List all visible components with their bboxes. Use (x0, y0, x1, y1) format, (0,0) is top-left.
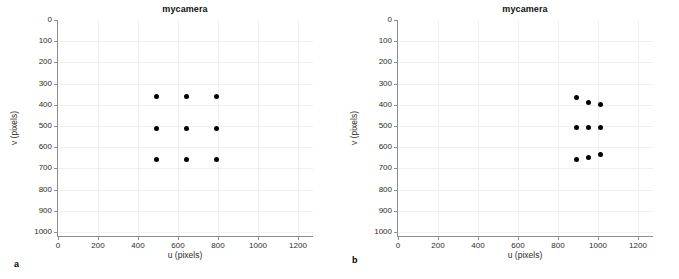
panel-a: mycamera 0200400600800100012000100200300… (0, 0, 339, 279)
scatter-point (574, 95, 579, 100)
scatter-point (184, 157, 189, 162)
scatter-point (574, 125, 579, 130)
panel-b-plot-area: 0200400600800100012000100200300400500600… (397, 20, 653, 237)
x-axis-tick-label: 1000 (249, 242, 267, 250)
y-axis-tick (54, 190, 58, 191)
scatter-point (154, 157, 159, 162)
scatter-point (598, 152, 603, 157)
scatter-point (214, 94, 219, 99)
x-axis-tick (438, 236, 439, 240)
scatter-point (574, 157, 579, 162)
x-axis-tick-label: 200 (91, 242, 104, 250)
x-axis-tick (258, 236, 259, 240)
y-axis-tick (394, 190, 398, 191)
y-axis-tick (394, 147, 398, 148)
y-axis-tick-label: 600 (379, 143, 392, 151)
y-axis-tick-label: 800 (379, 186, 392, 194)
scatter-point (586, 125, 591, 130)
panel-a-y-axis-label: v (pixels) (9, 111, 19, 145)
panel-b-y-axis-label: v (pixels) (349, 111, 359, 145)
y-axis-tick-label: 100 (379, 37, 392, 45)
x-axis-tick (638, 236, 639, 240)
y-axis-tick-label: 500 (39, 122, 52, 130)
scatter-point (598, 102, 603, 107)
x-axis-tick-label: 400 (471, 242, 484, 250)
y-axis-tick (54, 211, 58, 212)
x-axis-tick (138, 236, 139, 240)
scatter-point (154, 94, 159, 99)
x-axis-tick-label: 800 (211, 242, 224, 250)
y-axis-tick-label: 800 (39, 186, 52, 194)
y-axis-tick-label: 400 (379, 101, 392, 109)
x-axis-tick-label: 600 (511, 242, 524, 250)
y-axis-tick (394, 41, 398, 42)
panel-b-data-points (398, 20, 653, 236)
y-axis-tick-label: 0 (388, 16, 392, 24)
y-axis-tick (394, 105, 398, 106)
y-axis-tick-label: 600 (39, 143, 52, 151)
y-axis-tick (394, 232, 398, 233)
panel-a-plot-area: 0200400600800100012000100200300400500600… (57, 20, 313, 237)
x-axis-tick-label: 0 (56, 242, 60, 250)
y-axis-tick (394, 84, 398, 85)
y-axis-tick-label: 0 (48, 16, 52, 24)
y-axis-tick-label: 200 (39, 58, 52, 66)
y-axis-tick (54, 84, 58, 85)
scatter-point (184, 94, 189, 99)
y-axis-tick-label: 200 (379, 58, 392, 66)
x-axis-tick (518, 236, 519, 240)
panel-b-letter: b (352, 255, 358, 265)
x-axis-tick (298, 236, 299, 240)
y-axis-tick (54, 41, 58, 42)
panel-a-title: mycamera (57, 4, 313, 14)
y-axis-tick-label: 300 (379, 80, 392, 88)
scatter-point (154, 126, 159, 131)
x-axis-tick (178, 236, 179, 240)
y-axis-tick-label: 1000 (374, 228, 392, 236)
y-axis-tick-label: 1000 (34, 228, 52, 236)
y-axis-tick (54, 126, 58, 127)
x-axis-tick (98, 236, 99, 240)
scatter-point (214, 157, 219, 162)
y-axis-tick (54, 232, 58, 233)
y-axis-tick (394, 62, 398, 63)
panel-b: mycamera 0200400600800100012000100200300… (340, 0, 679, 279)
y-axis-tick (54, 168, 58, 169)
y-axis-tick-label: 400 (39, 101, 52, 109)
x-axis-tick (398, 236, 399, 240)
y-axis-tick-label: 900 (39, 207, 52, 215)
panel-b-x-axis-label: u (pixels) (397, 250, 653, 260)
panel-b-title: mycamera (397, 4, 653, 14)
y-axis-tick (394, 168, 398, 169)
y-axis-tick (54, 62, 58, 63)
x-axis-tick-label: 1200 (289, 242, 307, 250)
x-axis-tick-label: 400 (131, 242, 144, 250)
panel-a-letter: a (14, 259, 19, 269)
x-axis-tick-label: 1200 (629, 242, 647, 250)
y-axis-tick (394, 211, 398, 212)
x-axis-tick-label: 0 (396, 242, 400, 250)
scatter-point (586, 100, 591, 105)
y-axis-tick (394, 20, 398, 21)
y-axis-tick (54, 20, 58, 21)
y-axis-tick-label: 100 (39, 37, 52, 45)
panel-a-x-axis-label: u (pixels) (57, 250, 313, 260)
x-axis-tick-label: 800 (551, 242, 564, 250)
panel-a-data-points (58, 20, 313, 236)
y-axis-tick (394, 126, 398, 127)
x-axis-tick-label: 200 (431, 242, 444, 250)
y-axis-tick-label: 900 (379, 207, 392, 215)
figure-root: mycamera 0200400600800100012000100200300… (0, 0, 679, 279)
y-axis-tick-label: 300 (39, 80, 52, 88)
scatter-point (598, 125, 603, 130)
x-axis-tick (218, 236, 219, 240)
x-axis-tick (598, 236, 599, 240)
x-axis-tick (558, 236, 559, 240)
x-axis-tick (478, 236, 479, 240)
scatter-point (586, 155, 591, 160)
x-axis-tick (58, 236, 59, 240)
y-axis-tick (54, 105, 58, 106)
y-axis-tick-label: 700 (39, 164, 52, 172)
scatter-point (214, 126, 219, 131)
x-axis-tick-label: 600 (171, 242, 184, 250)
